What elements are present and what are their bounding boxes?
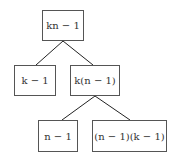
node-right-left-label: n − 1	[44, 131, 72, 142]
node-right-right-label: (n − 1)(k − 1)	[94, 131, 164, 142]
node-left: k − 1	[14, 65, 56, 96]
node-root-label: kn − 1	[46, 20, 80, 31]
edge-root-left	[36, 41, 63, 65]
node-right: k(n − 1)	[70, 65, 120, 96]
node-right-label: k(n − 1)	[74, 75, 115, 86]
edge-root-right	[63, 41, 93, 65]
node-right-left: n − 1	[38, 120, 78, 152]
node-left-label: k − 1	[21, 75, 48, 86]
factor-tree-diagram: kn − 1 k − 1 k(n − 1) n − 1 (n − 1)(k − …	[0, 0, 177, 165]
node-root: kn − 1	[42, 10, 84, 41]
edge-right-rightleft	[62, 96, 95, 120]
node-right-right: (n − 1)(k − 1)	[92, 120, 167, 152]
edge-right-rightright	[95, 96, 130, 120]
